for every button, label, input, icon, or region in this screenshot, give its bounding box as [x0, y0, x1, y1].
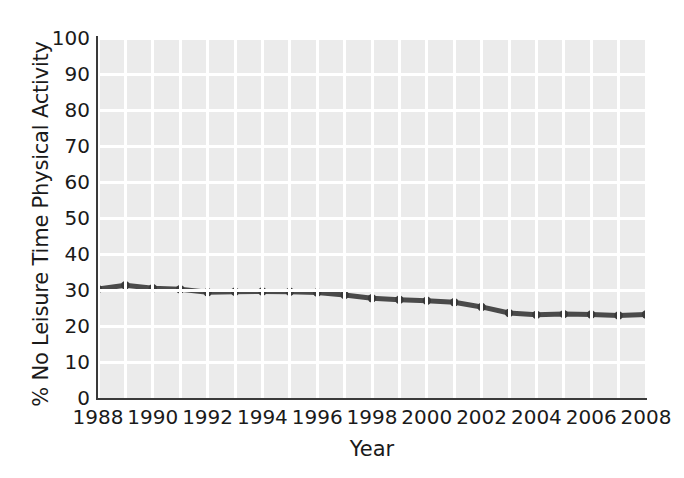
- gridline-vertical: [234, 38, 237, 398]
- x-tick-label: 2004: [511, 405, 562, 429]
- x-tick-label: 2000: [401, 405, 452, 429]
- y-tick-label: 10: [40, 352, 90, 372]
- gridline-vertical: [261, 38, 264, 398]
- y-tick-label: 30: [40, 280, 90, 300]
- gridline-vertical: [316, 38, 319, 398]
- gridline-vertical: [425, 38, 428, 398]
- gridline-vertical: [206, 38, 209, 398]
- x-tick-label: 1992: [182, 405, 233, 429]
- gridline-vertical: [124, 38, 127, 398]
- x-tick-label: 2006: [566, 405, 617, 429]
- line-chart: % No Leisure Time Physical Activity 1009…: [0, 0, 684, 478]
- gridline-vertical: [179, 38, 182, 398]
- y-tick-label: 50: [40, 208, 90, 228]
- x-tick-label: 1990: [127, 405, 178, 429]
- y-axis-spine: [96, 36, 98, 400]
- x-tick-label: 2008: [621, 405, 672, 429]
- x-axis-spine: [96, 398, 647, 400]
- x-tick-label: 1996: [292, 405, 343, 429]
- gridline-vertical: [398, 38, 401, 398]
- gridline-vertical: [480, 38, 483, 398]
- gridline-vertical: [535, 38, 538, 398]
- gridline-vertical: [343, 38, 346, 398]
- gridline-vertical: [562, 38, 565, 398]
- gridline-vertical: [151, 38, 154, 398]
- y-tick-label: 70: [40, 136, 90, 156]
- gridline-vertical: [508, 38, 511, 398]
- gridline-vertical: [98, 38, 100, 398]
- x-tick-label: 1994: [237, 405, 288, 429]
- gridline-vertical: [453, 38, 456, 398]
- gridline-vertical: [617, 38, 620, 398]
- y-tick-label: 80: [40, 100, 90, 120]
- plot-area: [98, 38, 646, 398]
- y-tick-label: 100: [40, 28, 90, 48]
- gridline-vertical: [288, 38, 291, 398]
- gridline-vertical: [645, 38, 647, 398]
- x-tick-label: 2002: [456, 405, 507, 429]
- x-axis-title: Year: [98, 437, 646, 461]
- gridline-vertical: [371, 38, 374, 398]
- gridline-vertical: [590, 38, 593, 398]
- x-tick-label: 1988: [73, 405, 124, 429]
- y-tick-label: 20: [40, 316, 90, 336]
- y-tick-label: 40: [40, 244, 90, 264]
- y-tick-label: 90: [40, 64, 90, 84]
- x-tick-label: 1998: [347, 405, 398, 429]
- y-tick-label: 60: [40, 172, 90, 192]
- x-axis-tick-labels: 1988199019921994199619982000200220042006…: [0, 405, 684, 435]
